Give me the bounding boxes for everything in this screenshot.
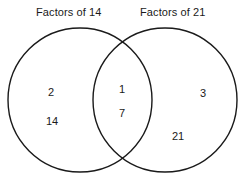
right-set-member: 3 bbox=[200, 87, 206, 100]
right-set-title: Factors of 21 bbox=[140, 6, 206, 19]
venn-diagram: Factors of 14 Factors of 21 2 14 1 7 3 2… bbox=[0, 0, 245, 179]
intersection-member: 1 bbox=[119, 83, 125, 96]
right-set-member: 21 bbox=[172, 130, 184, 143]
left-set-member: 14 bbox=[46, 115, 58, 128]
left-set-title: Factors of 14 bbox=[36, 6, 102, 19]
intersection-member: 7 bbox=[119, 107, 125, 120]
left-set-member: 2 bbox=[48, 86, 54, 99]
